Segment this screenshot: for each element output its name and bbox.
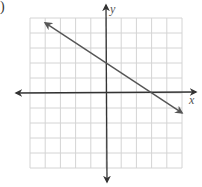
y-axis-label: y xyxy=(109,2,116,16)
coordinate-plane: ) y x xyxy=(0,0,202,187)
series-group xyxy=(45,23,182,113)
problem-label-fragment: ) xyxy=(0,0,5,15)
series-line xyxy=(45,23,182,113)
x-axis-label: x xyxy=(188,93,195,107)
